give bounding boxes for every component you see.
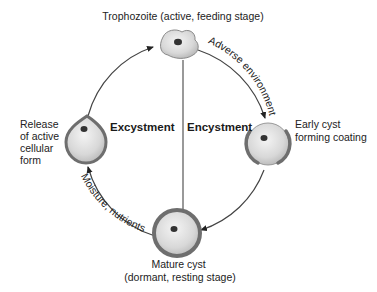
arrow-early-cyst-to-mature-cyst — [201, 170, 264, 230]
excysting-cell-icon — [66, 116, 106, 163]
release-label: Release of active cellular form — [20, 118, 62, 166]
early-cyst-label: Early cyst forming coating — [295, 118, 367, 143]
arrow-release-to-trophozoite — [88, 47, 153, 116]
trophozoite-cell-icon — [161, 30, 199, 58]
life-cycle-diagram: Adverse environment Moisture, nutrients … — [0, 0, 377, 292]
adverse-environment-label: Adverse environment — [207, 34, 279, 117]
early-cyst-cell-icon — [246, 123, 290, 165]
mature-cyst-label: Mature cyst (dormant, resting stage) — [124, 258, 235, 283]
moisture-nutrients-label: Moisture, nutrients — [79, 171, 147, 234]
encystment-label: Encystment — [187, 121, 252, 133]
mature-cyst-cell-icon — [154, 210, 200, 256]
trophozoite-label: Trophozoite (active, feeding stage) — [102, 10, 263, 22]
excystment-label: Excystment — [110, 121, 175, 133]
